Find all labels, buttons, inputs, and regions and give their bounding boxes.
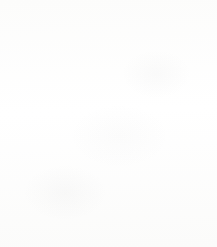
atom-diagram: s	[0, 0, 217, 247]
nucleus-plus-icon	[100, 116, 123, 139]
atom-diagram-canvas: s	[0, 0, 217, 247]
electron-dot-icon	[72, 25, 91, 43]
orbit-shell-label: s	[67, 48, 82, 77]
electron-minus-icon	[84, 10, 106, 16]
